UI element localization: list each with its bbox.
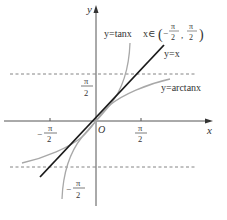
tick-label-y-pos: π 2	[81, 76, 93, 98]
y-axis-label: y	[86, 3, 92, 15]
svg-text:π: π	[84, 76, 89, 86]
svg-text:−: −	[66, 184, 71, 194]
tick-label-x-neg: − π 2	[37, 123, 57, 144]
x-axis-arrow	[205, 119, 213, 124]
svg-text:2: 2	[76, 190, 80, 200]
function-graph: y x O π 2 − π 2 π 2 − π 2 y=tanx x∈ ( − …	[0, 0, 227, 220]
svg-text:π: π	[189, 22, 193, 31]
y-axis-arrow	[94, 5, 99, 13]
origin-label: O	[98, 124, 105, 135]
svg-text:−: −	[37, 129, 42, 139]
svg-text:2: 2	[84, 88, 88, 98]
svg-text:π: π	[48, 123, 53, 133]
svg-text:x∈: x∈	[143, 28, 155, 39]
svg-text:2: 2	[138, 134, 142, 144]
svg-text:2: 2	[189, 33, 193, 42]
svg-text:): )	[199, 27, 204, 43]
svg-text:π: π	[76, 178, 81, 188]
svg-text:2: 2	[171, 33, 175, 42]
svg-text:,: ,	[181, 30, 183, 40]
label-identity: y=x	[164, 48, 180, 59]
svg-text:π: π	[138, 123, 143, 133]
svg-text:2: 2	[47, 134, 51, 144]
x-axis-label: x	[206, 124, 212, 136]
label-arctan: y=arctanx	[161, 82, 201, 93]
label-tan: y=tanx	[104, 28, 132, 39]
tick-label-y-neg: − π 2	[66, 178, 85, 200]
tick-label-x-pos: π 2	[135, 123, 147, 144]
svg-text:π: π	[171, 22, 175, 31]
label-tan-domain: x∈ ( − π 2 , π 2 )	[143, 22, 204, 43]
svg-text:−: −	[163, 28, 168, 38]
curve-identity	[40, 45, 164, 177]
